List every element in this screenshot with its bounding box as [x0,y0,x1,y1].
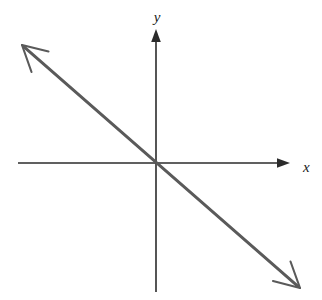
y-axis-label: y [152,9,161,25]
figure-background [0,0,322,300]
x-axis-label: x [302,159,310,175]
graph-canvas: y x [0,0,322,300]
coordinate-plane-figure: y x [0,0,322,300]
